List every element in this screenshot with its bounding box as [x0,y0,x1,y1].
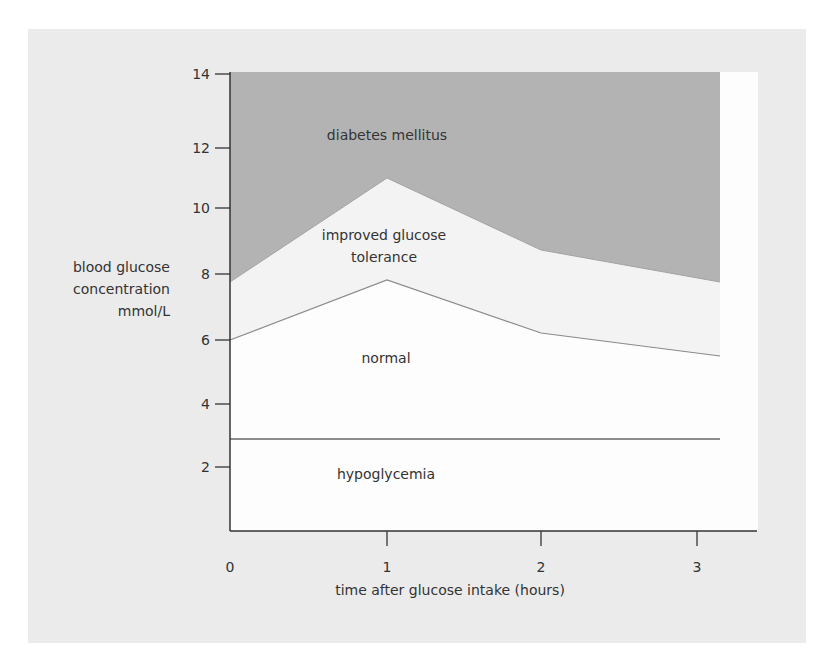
x-tick-labels: 0 1 2 3 [226,559,702,575]
x-tick-0: 0 [226,559,235,575]
y-axis-title-line3: mmol/L [118,303,170,319]
x-tick-1: 1 [383,559,392,575]
y-tick-8: 8 [201,266,210,282]
label-diabetes-mellitus: diabetes mellitus [327,127,447,143]
y-tick-10: 10 [192,200,210,216]
label-normal: normal [361,350,410,366]
y-axis-title-line1: blood glucose [73,259,170,275]
y-tick-labels: 14 12 10 8 6 4 2 [192,66,210,475]
y-tick-14: 14 [192,66,210,82]
y-ticks [215,74,230,467]
label-hypoglycemia: hypoglycemia [337,466,435,482]
y-tick-12: 12 [192,140,210,156]
label-igt-line1: improved glucose [322,227,446,243]
y-tick-6: 6 [201,332,210,348]
glucose-chart: 14 12 10 8 6 4 2 0 1 2 3 time after gluc… [0,0,834,663]
x-ticks [387,531,697,546]
x-tick-2: 2 [537,559,546,575]
x-tick-3: 3 [693,559,702,575]
y-tick-4: 4 [201,396,210,412]
y-axis-title-line2: concentration [73,281,170,297]
x-axis-title: time after glucose intake (hours) [335,582,565,598]
y-axis-title: blood glucose concentration mmol/L [73,259,170,319]
label-igt-line2: tolerance [351,249,417,265]
y-tick-2: 2 [201,459,210,475]
